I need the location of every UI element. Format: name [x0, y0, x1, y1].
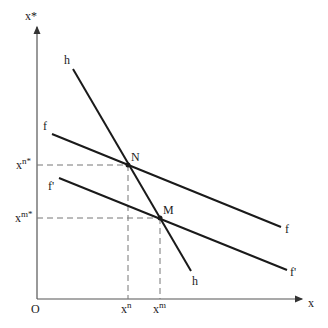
x-tick-xm: xm	[153, 300, 166, 316]
y-axis-label: x*	[25, 9, 37, 23]
y-tick-xm-star: xm*	[15, 209, 33, 225]
origin-label: O	[31, 302, 40, 316]
point-n	[126, 163, 131, 168]
f-prime-start-label: f'	[48, 179, 54, 193]
line-f-prime	[59, 178, 287, 270]
h-end-label: h	[192, 274, 198, 288]
f-prime-end-label: f'	[290, 265, 296, 279]
f-start-label: f	[43, 119, 47, 133]
line-h	[73, 69, 191, 271]
y-tick-xn-star: xn*	[16, 156, 32, 172]
point-m-label: M	[163, 203, 174, 217]
h-start-label: h	[64, 53, 70, 67]
f-end-label: f	[285, 222, 289, 236]
economic-diagram: x* x O h h f f f' f' N M xn* xm* xn xm	[0, 0, 328, 328]
point-n-label: N	[131, 150, 140, 164]
x-axis-label: x	[308, 296, 314, 310]
point-m	[158, 216, 163, 221]
x-tick-xn: xn	[121, 300, 132, 316]
